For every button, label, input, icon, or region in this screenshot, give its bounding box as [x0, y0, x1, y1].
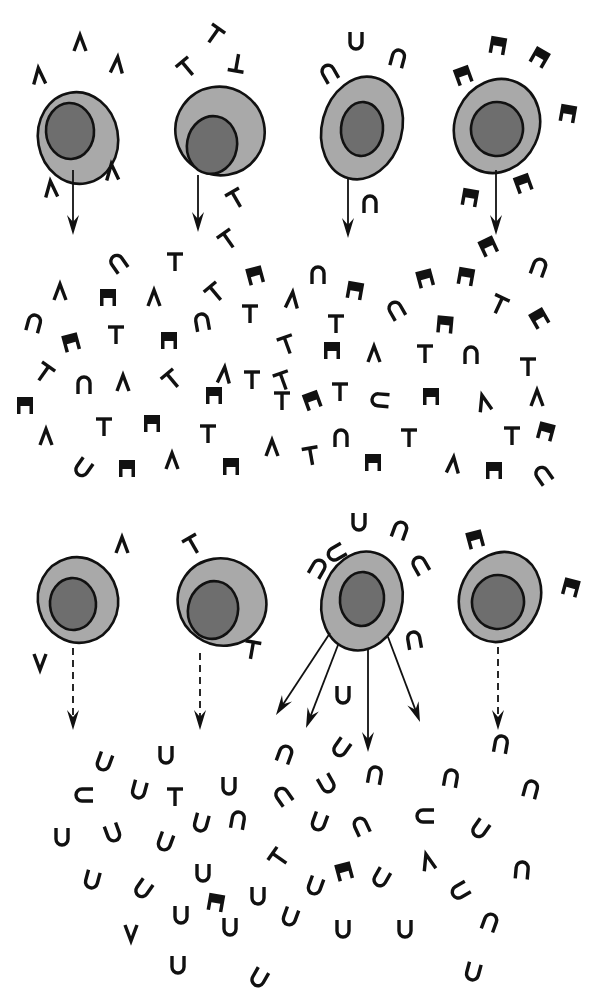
- arch-receptor-icon: [372, 867, 391, 888]
- arch-receptor-icon: [417, 810, 434, 822]
- arch-receptor-icon: [331, 737, 351, 758]
- arch-receptor-icon: [372, 393, 390, 406]
- caret-receptor-icon: [40, 429, 52, 445]
- caret-receptor-icon: [74, 35, 86, 51]
- arch-receptor-icon: [390, 49, 406, 69]
- tee-receptor-icon: [244, 372, 260, 389]
- arch-receptor-icon: [465, 347, 477, 364]
- arch-receptor-icon: [307, 875, 324, 895]
- tee-receptor-icon: [520, 359, 536, 376]
- block-receptor-icon: [365, 454, 381, 471]
- arch-receptor-icon: [308, 558, 327, 579]
- block-receptor-icon: [453, 65, 474, 86]
- caret-receptor-icon: [531, 390, 543, 406]
- block-receptor-icon: [436, 315, 453, 333]
- arch-receptor-icon: [223, 777, 235, 794]
- arch-receptor-icon: [350, 32, 362, 49]
- arch-receptor-icon: [387, 300, 406, 321]
- arrowhead-icon: [407, 701, 425, 724]
- block-receptor-icon: [17, 397, 33, 414]
- arch-receptor-icon: [337, 920, 349, 937]
- caret-receptor-icon: [44, 181, 57, 198]
- cell: [310, 67, 414, 188]
- arch-receptor-icon: [56, 828, 68, 845]
- tee-receptor-icon: [167, 789, 183, 806]
- tee-receptor-icon: [176, 57, 199, 80]
- tee-receptor-icon: [417, 346, 433, 363]
- arch-receptor-icon: [311, 811, 328, 831]
- arch-receptor-icon: [407, 631, 422, 650]
- block-receptor-icon: [346, 281, 365, 301]
- arrow: [342, 178, 354, 238]
- arch-receptor-icon: [399, 920, 411, 937]
- arrow: [490, 170, 502, 235]
- block-receptor-icon: [415, 268, 435, 289]
- arrowhead-icon: [271, 695, 292, 718]
- arch-receptor-icon: [160, 746, 172, 763]
- block-receptor-icon: [536, 421, 556, 442]
- block-receptor-icon: [223, 458, 239, 475]
- block-receptor-icon: [161, 332, 177, 349]
- tee-receptor-icon: [332, 384, 348, 401]
- caret-receptor-icon: [476, 394, 492, 413]
- caret-receptor-icon: [148, 290, 160, 306]
- cell: [160, 541, 283, 663]
- block-receptor-icon: [559, 104, 578, 124]
- arch-receptor-icon: [96, 751, 113, 771]
- arch-receptor-icon: [515, 862, 528, 880]
- arch-receptor-icon: [104, 822, 121, 842]
- arch-receptor-icon: [108, 253, 128, 274]
- caret-receptor-icon: [446, 457, 459, 474]
- block-receptor-icon: [206, 387, 222, 404]
- cell: [158, 69, 282, 193]
- block-receptor-icon: [144, 415, 160, 432]
- caret-receptor-icon: [420, 853, 436, 872]
- block-receptor-icon: [513, 173, 534, 194]
- arch-receptor-icon: [533, 465, 553, 486]
- tee-receptor-icon: [268, 847, 291, 870]
- tee-receptor-icon: [204, 282, 227, 305]
- caret-receptor-icon: [166, 453, 178, 469]
- caret-receptor-icon: [54, 284, 66, 300]
- tee-receptor-icon: [273, 371, 294, 392]
- caret-receptor-icon: [368, 346, 380, 362]
- block-receptor-icon: [61, 332, 81, 353]
- tee-receptor-icon: [302, 447, 321, 467]
- caret-receptor-icon: [117, 375, 129, 391]
- block-receptor-icon: [528, 307, 550, 330]
- tee-receptor-icon: [228, 53, 247, 73]
- cell: [444, 538, 555, 655]
- arch-receptor-icon: [157, 831, 174, 851]
- arch-receptor-icon: [282, 906, 299, 926]
- arch-receptor-icon: [317, 773, 336, 794]
- arch-receptor-icon: [73, 457, 93, 478]
- cell: [31, 86, 126, 190]
- tee-receptor-icon: [504, 428, 520, 445]
- arch-receptor-icon: [364, 196, 376, 213]
- block-receptor-icon: [477, 235, 499, 257]
- block-receptor-icon: [119, 460, 135, 477]
- block-receptor-icon: [465, 529, 485, 550]
- caret-receptor-icon: [285, 292, 298, 309]
- block-receptor-icon: [207, 893, 226, 913]
- tee-receptor-icon: [182, 534, 204, 557]
- tee-receptor-icon: [202, 24, 225, 47]
- arch-receptor-icon: [444, 769, 459, 788]
- caret-receptor-icon: [266, 440, 278, 456]
- caret-receptor-icon: [116, 537, 128, 553]
- arch-receptor-icon: [193, 813, 209, 833]
- block-receptor-icon: [302, 390, 323, 411]
- caret-receptor-icon: [125, 925, 137, 941]
- arch-receptor-icon: [133, 878, 153, 899]
- arch-receptor-icon: [530, 257, 547, 277]
- arch-receptor-icon: [320, 63, 339, 84]
- tee-receptor-icon: [243, 641, 262, 661]
- cell-nucleus: [45, 102, 96, 160]
- arch-receptor-icon: [195, 313, 210, 332]
- block-receptor-icon: [334, 861, 354, 882]
- arch-receptor-icon: [470, 818, 490, 839]
- bottom-row-cells: [28, 538, 555, 663]
- dashed-arrow: [67, 648, 79, 730]
- tee-receptor-icon: [167, 254, 183, 271]
- arch-receptor-icon: [273, 786, 293, 807]
